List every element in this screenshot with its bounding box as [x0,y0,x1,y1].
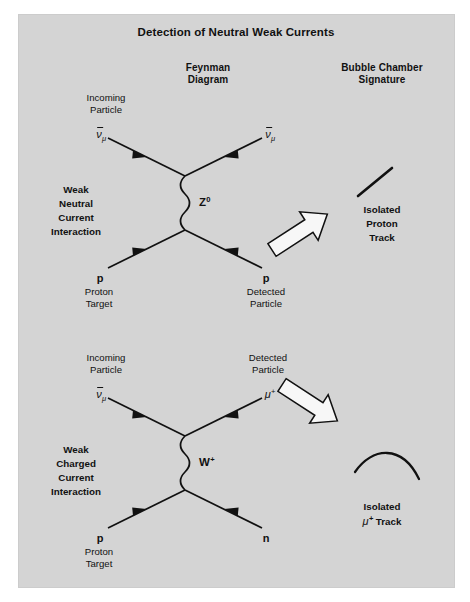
nc-incoming-antineutrino-symbol: νμ [96,124,106,143]
nc-interaction-label-line2: Neutral [59,197,93,211]
nc-incoming-arrowhead [132,150,146,158]
nc-block-arrow [263,200,337,264]
neutral-current-feynman-diagram [108,138,262,268]
column-header-bubble-chamber: Bubble Chamber [341,62,422,74]
cc-w-boson-propagator [181,436,190,490]
cc-incoming-particle-label-line1: Incoming [87,352,126,363]
nc-incoming-particle-label-line2: Particle [90,104,122,115]
isolated-proton-track-label-line1: Isolated [363,203,400,217]
isolated-muon-track-curve [355,453,419,479]
cc-target-label-line1: Proton [85,546,113,557]
nc-z-boson-superscript: 0 [206,195,210,204]
isolated-proton-track-label-line3: Track [369,231,395,245]
cc-outgoing-muon-arrowhead [224,410,238,418]
nc-interaction-label-line1: Weak [63,183,88,197]
nc-outgoing-arrowhead [224,150,238,158]
column-header-bubble-chamber-line2: Signature [358,74,405,86]
nc-target-label-line2: Target [86,298,113,309]
cc-incoming-particle-label-line2: Particle [90,364,122,375]
nc-incoming-particle-label-line1: Incoming [87,92,126,103]
nc-detected-label-line1: Detected [247,286,285,297]
cc-interaction-label-line4: Interaction [51,485,101,499]
cc-neutron-symbol: n [263,532,270,545]
cc-block-arrow [273,371,347,435]
column-header-feynman-line1: Feynman [186,62,231,73]
column-header-feynman-line2: Diagram [188,74,229,86]
charged-current-feynman-diagram [108,398,262,528]
isolated-muon-track-label-line2: μ+ Track [363,514,402,530]
column-header-feynman: Feynman [186,62,231,74]
cc-incoming-arrowhead [132,410,146,418]
nc-detected-proton-symbol: p [263,272,270,285]
nc-detected-proton-arrowhead [224,248,238,256]
cc-detected-mu-superscript: + [271,387,275,396]
nc-z-boson-base: Z [199,196,206,208]
nc-detected-label-line2: Particle [250,298,282,309]
nc-detected-proton-line [185,230,262,268]
figure-page: Detection of Neutral Weak Currents Feynm… [0,0,470,602]
nc-target-label-line1: Proton [85,286,113,297]
page-title: Detection of Neutral Weak Currents [138,26,335,40]
nc-incoming-mu-subscript: μ [102,134,106,143]
cc-outgoing-muon-line [185,398,262,436]
nc-target-proton-symbol: p [97,272,104,285]
nc-incoming-nu-glyph: ν [96,128,102,140]
cc-incoming-mu-subscript: μ [102,394,106,403]
nc-z-boson-label: Z0 [199,196,210,210]
nc-outgoing-nu-glyph: ν [265,128,271,140]
cc-w-boson-base: W [199,456,210,468]
nc-outgoing-antineutrino-line [185,138,262,176]
isolated-proton-track-label-line2: Proton [366,217,398,231]
nc-target-proton-arrowhead [132,248,146,256]
isolated-proton-track-line [358,168,392,196]
isolated-muon-track-suffix: Track [373,516,401,527]
cc-interaction-label-line2: Charged [56,457,96,471]
cc-detected-particle-label-line2: Particle [252,364,284,375]
cc-neutron-arrowhead [224,508,238,516]
isolated-muon-track-mu-superscript: + [369,514,373,523]
cc-interaction-label-line3: Current [58,471,93,485]
cc-interaction-label-line1: Weak [63,443,88,457]
nc-outgoing-mu-subscript: μ [271,134,275,143]
cc-detected-particle-label-line1: Detected [249,352,287,363]
cc-target-label-line2: Target [86,558,113,569]
nc-interaction-label-line4: Interaction [51,225,101,239]
isolated-muon-track-label-line1: Isolated [363,500,400,514]
cc-w-boson-label: W+ [199,456,214,470]
cc-neutron-line [185,490,262,528]
cc-w-boson-superscript: + [210,455,214,464]
cc-detected-muon-symbol: μ+ [265,384,275,403]
cc-target-proton-arrowhead [132,508,146,516]
cc-target-proton-symbol: p [97,532,104,545]
cc-incoming-antineutrino-symbol: νμ [96,384,106,403]
nc-outgoing-antineutrino-symbol: νμ [265,124,275,143]
cc-incoming-nu-glyph: ν [96,388,102,400]
nc-z-boson-propagator [181,176,190,230]
nc-interaction-label-line3: Current [58,211,93,225]
